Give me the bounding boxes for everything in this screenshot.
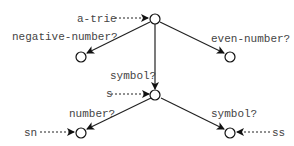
label-even-number: even-number? [211,33,290,45]
trie-diagram: a-trie negative-number? even-number? sym… [0,0,294,146]
node-root [150,14,160,24]
label-sn: sn [24,127,37,139]
label-s: s [106,88,113,100]
label-negative-number: negative-number? [12,31,118,43]
node-s [150,90,160,100]
node-sn [76,128,86,138]
label-ss: ss [272,127,285,139]
label-symbol-2: symbol? [211,108,257,120]
label-a-trie: a-trie [77,13,117,25]
node-negative [76,52,86,62]
node-even [225,52,235,62]
node-ss [225,128,235,138]
label-symbol-1: symbol? [110,70,156,82]
label-number: number? [69,108,115,120]
